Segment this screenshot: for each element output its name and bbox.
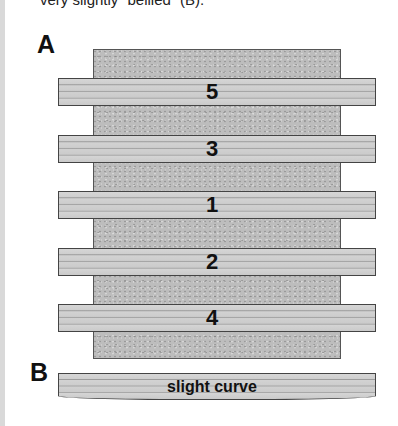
strip-number: 4 [206, 307, 218, 329]
strip-2: 2 [58, 248, 376, 276]
strip-number: 3 [206, 138, 218, 160]
curved-strip: slight curve [58, 373, 376, 400]
panel-b-label: B [30, 358, 48, 387]
strip-number: 5 [206, 81, 218, 103]
panel-a-label: A [37, 30, 55, 59]
page-edge-strip [0, 0, 5, 426]
strip-number: 1 [206, 194, 218, 216]
strip-4: 4 [58, 304, 376, 332]
strip-number: 2 [206, 251, 218, 273]
caption-text: very slightly “bellied” (B). [40, 0, 204, 8]
strip-1: 1 [58, 191, 376, 219]
strip-5: 5 [58, 78, 376, 106]
curve-label: slight curve [167, 379, 257, 395]
strip-3: 3 [58, 135, 376, 163]
